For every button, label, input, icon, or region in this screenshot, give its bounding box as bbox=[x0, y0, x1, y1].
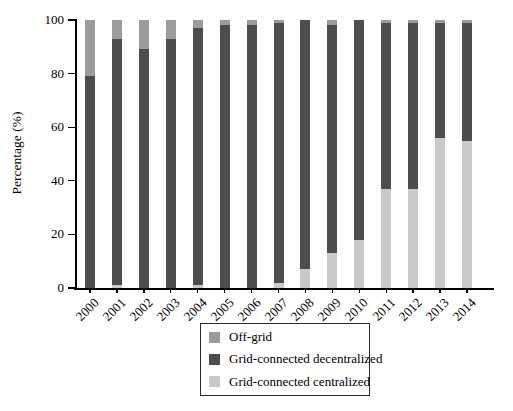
y-tick-label: 100 bbox=[26, 12, 64, 28]
y-axis-line bbox=[75, 19, 77, 289]
y-tick-label: 0 bbox=[26, 280, 64, 296]
stacked-bar-chart-figure: 020406080100 200020012002200320042005200… bbox=[0, 0, 513, 411]
bar-segment bbox=[462, 141, 472, 288]
bar-segment bbox=[193, 285, 203, 288]
y-tick-mark bbox=[68, 19, 75, 20]
legend-item-grid-connected-decentralized: Grid-connected decentralized bbox=[209, 351, 369, 367]
bar-segment bbox=[274, 283, 284, 288]
grid-connected-centralized-swatch-icon bbox=[209, 376, 220, 387]
bar-segment bbox=[354, 20, 364, 240]
bar-segment bbox=[220, 25, 230, 288]
bar-segment bbox=[435, 138, 445, 288]
x-tick-label: 2004 bbox=[180, 295, 210, 325]
bar-segment bbox=[247, 20, 257, 25]
bar-segment bbox=[354, 240, 364, 288]
bar-segment bbox=[381, 189, 391, 288]
x-tick-mark bbox=[116, 289, 117, 293]
y-tick-label: 40 bbox=[26, 173, 64, 189]
bar-segment bbox=[166, 39, 176, 288]
x-tick-mark bbox=[466, 289, 467, 293]
y-tick-label: 20 bbox=[26, 226, 64, 242]
bar-segment bbox=[85, 20, 95, 76]
bar-segment bbox=[193, 20, 203, 28]
x-tick-label: 2012 bbox=[396, 295, 426, 325]
bar-segment bbox=[408, 189, 418, 288]
bar-segment bbox=[220, 20, 230, 25]
plot-area: 020406080100 200020012002200320042005200… bbox=[0, 0, 513, 320]
bar-segment bbox=[462, 23, 472, 141]
x-tick-label: 2005 bbox=[207, 295, 237, 325]
bar-segment bbox=[408, 20, 418, 23]
x-tick-mark bbox=[143, 289, 144, 293]
bar-segment bbox=[327, 20, 337, 25]
bar-segment bbox=[300, 20, 310, 269]
x-tick-label: 2006 bbox=[234, 295, 264, 325]
bar-segment bbox=[381, 23, 391, 189]
bar-segment bbox=[327, 253, 337, 288]
y-tick-mark bbox=[68, 234, 75, 235]
bar-segment bbox=[274, 20, 284, 23]
x-tick-mark bbox=[197, 289, 198, 293]
off-grid-swatch-icon bbox=[209, 332, 220, 343]
x-tick-label: 2001 bbox=[100, 295, 130, 325]
x-tick-label: 2013 bbox=[423, 295, 453, 325]
x-tick-mark bbox=[305, 289, 306, 293]
x-tick-mark bbox=[412, 289, 413, 293]
bar-segment bbox=[112, 20, 122, 39]
bar-segment bbox=[139, 20, 149, 49]
bar-segment bbox=[300, 269, 310, 288]
x-tick-label: 2008 bbox=[288, 295, 318, 325]
x-tick-mark bbox=[386, 289, 387, 293]
x-tick-label: 2000 bbox=[73, 295, 103, 325]
y-tick-mark bbox=[68, 73, 75, 74]
bar-segment bbox=[139, 49, 149, 288]
y-tick-mark bbox=[68, 287, 75, 288]
bar-segment bbox=[85, 76, 95, 288]
bar-segment bbox=[462, 20, 472, 23]
legend-label: Grid-connected centralized bbox=[229, 374, 370, 390]
x-tick-label: 2011 bbox=[369, 295, 398, 324]
x-tick-mark bbox=[89, 289, 90, 293]
bar-segment bbox=[327, 25, 337, 253]
x-tick-label: 2010 bbox=[342, 295, 372, 325]
x-tick-mark bbox=[439, 289, 440, 293]
bar-segment bbox=[112, 285, 122, 288]
legend-label: Grid-connected decentralized bbox=[229, 351, 382, 367]
y-tick-label: 80 bbox=[26, 66, 64, 82]
grid-connected-decentralized-swatch-icon bbox=[209, 354, 220, 365]
bar-segment bbox=[435, 20, 445, 23]
legend-label: Off-grid bbox=[229, 329, 272, 345]
x-tick-label: 2009 bbox=[315, 295, 345, 325]
x-tick-mark bbox=[332, 289, 333, 293]
bar-segment bbox=[166, 20, 176, 39]
x-tick-mark bbox=[278, 289, 279, 293]
x-tick-mark bbox=[224, 289, 225, 293]
y-tick-mark bbox=[68, 180, 75, 181]
x-tick-mark bbox=[170, 289, 171, 293]
legend-item-grid-connected-centralized: Grid-connected centralized bbox=[209, 374, 369, 390]
x-tick-label: 2014 bbox=[450, 295, 480, 325]
y-axis-title: Percentage (%) bbox=[9, 112, 25, 195]
legend-item-off-grid: Off-grid bbox=[209, 329, 369, 345]
y-tick-mark bbox=[68, 127, 75, 128]
bar-segment bbox=[408, 23, 418, 189]
x-tick-label: 2003 bbox=[153, 295, 183, 325]
bar-segment bbox=[247, 25, 257, 288]
x-tick-mark bbox=[251, 289, 252, 293]
legend: Off-grid Grid-connected decentralized Gr… bbox=[200, 323, 370, 396]
x-tick-mark bbox=[359, 289, 360, 293]
x-tick-label: 2007 bbox=[261, 295, 291, 325]
x-tick-label: 2002 bbox=[126, 295, 156, 325]
bar-segment bbox=[381, 20, 391, 23]
bar-segment bbox=[435, 23, 445, 138]
bar-segment bbox=[193, 28, 203, 285]
x-axis-line bbox=[74, 288, 494, 290]
bar-segment bbox=[274, 23, 284, 283]
bar-segment bbox=[112, 39, 122, 286]
y-tick-label: 60 bbox=[26, 119, 64, 135]
